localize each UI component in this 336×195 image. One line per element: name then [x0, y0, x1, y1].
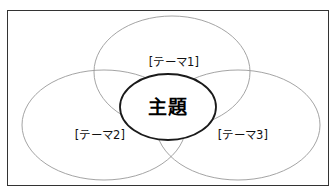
- figure-root: [テーマ1] [テーマ2] [テーマ3] 主題: [0, 0, 336, 195]
- center-subject-label: 主題: [148, 92, 188, 119]
- theme-1-label: [テーマ1]: [149, 53, 200, 69]
- theme-2-label: [テーマ2]: [75, 126, 126, 142]
- theme-3-label: [テーマ3]: [218, 126, 269, 142]
